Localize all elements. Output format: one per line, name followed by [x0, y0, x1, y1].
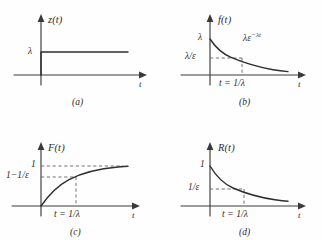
panel-d-y-axis-label: R(t)	[218, 143, 235, 154]
panel-c-y-tick-one: 1	[31, 160, 36, 170]
reliability-curve	[210, 166, 288, 201]
panel-d-y-tick-one: 1	[200, 160, 205, 170]
x-axis-arrowhead	[132, 203, 140, 210]
x-axis-arrowhead	[298, 203, 306, 210]
panel-c-caption: (c)	[70, 228, 81, 238]
panel-b-annotation-base: λε	[243, 33, 251, 43]
y-axis-arrowhead	[207, 142, 214, 150]
panel-a-y-tick-lambda: λ	[28, 47, 32, 57]
hazard-rate-curve	[41, 52, 128, 75]
panel-d-caption: (d)	[239, 228, 250, 238]
panel-a-y-axis-label: z(t)	[48, 15, 62, 26]
panel-c-y-axis-label: F(t)	[48, 143, 65, 154]
panel-b-density: f(t) λ λ/ε λε−λt t = 1/λ t (b)	[161, 0, 322, 120]
panel-d-x-axis-label: t	[298, 211, 301, 220]
x-axis-arrowhead	[139, 72, 147, 79]
panel-b-caption: (b)	[239, 98, 250, 108]
exponential-distribution-figure: z(t) λ t (a) f(t) λ λ/ε λε−λt t = 1/λ t …	[0, 0, 322, 240]
panel-c-cdf: F(t) 1 1−1/ε t = 1/λ t (c)	[0, 120, 161, 240]
y-axis-arrowhead	[38, 142, 45, 150]
panel-a-hazard-rate: z(t) λ t (a)	[0, 0, 161, 120]
panel-b-y-axis-label: f(t)	[218, 15, 231, 26]
panel-b-y-tick-lambda: λ	[198, 33, 202, 43]
x-axis-arrowhead	[298, 72, 306, 79]
y-axis-arrowhead	[207, 14, 214, 22]
panel-b-x-axis-label: t	[298, 80, 301, 89]
panel-d-y-tick-one-over-epsilon: 1/ε	[188, 183, 199, 193]
panel-b-function-annotation: λε−λt	[243, 32, 261, 44]
panel-b-y-tick-lambda-over-epsilon: λ/ε	[185, 52, 196, 62]
panel-a-x-axis-label: t	[139, 80, 142, 89]
panel-d-x-tick-label: t = 1/λ	[222, 210, 248, 220]
panel-c-y-tick-one-minus-one-over-epsilon: 1−1/ε	[6, 171, 29, 181]
panel-d-reliability: R(t) 1 1/ε t = 1/λ t (d)	[161, 120, 322, 240]
panel-a-caption: (a)	[72, 98, 83, 108]
y-axis-arrowhead	[38, 14, 45, 22]
panel-b-x-tick-label: t = 1/λ	[219, 79, 245, 89]
panel-b-annotation-exponent: −λt	[251, 31, 261, 39]
panel-c-x-tick-label: t = 1/λ	[54, 210, 80, 220]
panel-d-plot	[161, 120, 322, 240]
density-curve	[210, 39, 288, 72]
cdf-curve	[41, 166, 128, 206]
panel-c-x-axis-label: t	[132, 211, 135, 220]
